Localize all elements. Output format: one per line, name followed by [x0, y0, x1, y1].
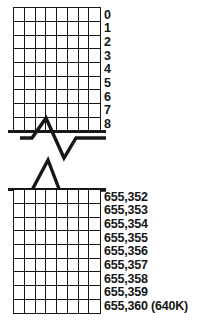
row-label-655352: 655,352	[104, 190, 208, 204]
zigzag-break-icon-top	[20, 108, 106, 160]
row-label-0: 0	[104, 8, 128, 22]
row-label-5: 5	[104, 76, 128, 90]
row-label-6: 6	[104, 90, 128, 104]
memory-block-diagram: 0 1 2 3 4 5 6 7 8 655,352 655,353 655,35…	[0, 0, 208, 331]
grid-cell	[88, 299, 100, 314]
row-label-655354: 655,354	[104, 217, 208, 231]
row-label-3: 3	[104, 49, 128, 63]
row-label-7: 7	[104, 104, 128, 118]
row-label-1: 1	[104, 22, 128, 36]
row-label-655353: 655,353	[104, 204, 208, 218]
row-label-2: 2	[104, 35, 128, 49]
top-row-label-column: 0 1 2 3 4 5 6 7 8	[104, 8, 128, 131]
row-label-655360: 655,360 (640K)	[104, 299, 208, 313]
row-label-8: 8	[104, 117, 128, 131]
row-label-655357: 655,357	[104, 258, 208, 272]
row-label-655355: 655,355	[104, 231, 208, 245]
row-label-4: 4	[104, 63, 128, 77]
row-label-655359: 655,359	[104, 286, 208, 300]
bottom-grid-block	[14, 190, 100, 313]
row-label-655356: 655,356	[104, 245, 208, 259]
bottom-row-label-column: 655,352 655,353 655,354 655,355 655,356 …	[104, 190, 208, 313]
row-label-655358: 655,358	[104, 272, 208, 286]
